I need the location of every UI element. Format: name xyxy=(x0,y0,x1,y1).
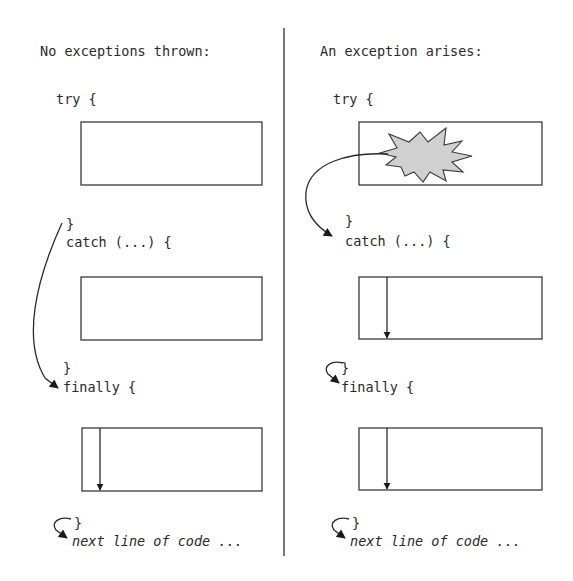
left-next-line: next line of code ... xyxy=(72,533,243,549)
left-heading: No exceptions thrown: xyxy=(40,43,211,59)
left-catch-open: catch (...) { xyxy=(66,234,172,250)
right-next-line: next line of code ... xyxy=(350,533,521,549)
continue-curl-arrow-icon-right xyxy=(332,518,349,538)
left-panel-no-exception: No exceptions thrown: try { } catch (...… xyxy=(33,43,262,549)
skip-catch-arrow-icon xyxy=(33,223,62,388)
left-finally-block xyxy=(82,428,262,491)
right-catch-open: catch (...) { xyxy=(345,233,451,249)
left-try-close: } xyxy=(66,216,74,232)
try-catch-finally-diagram: No exceptions thrown: try { } catch (...… xyxy=(0,0,573,581)
left-finally-close: } xyxy=(74,515,82,531)
right-heading: An exception arises: xyxy=(320,43,483,59)
left-catch-block xyxy=(81,277,262,340)
right-finally-open: finally { xyxy=(341,379,414,395)
right-try-close: } xyxy=(345,213,353,229)
right-try-open: try { xyxy=(333,91,374,107)
left-try-block xyxy=(81,122,262,185)
right-panel-exception: An exception arises: try { } catch (...)… xyxy=(306,43,542,549)
left-catch-close: } xyxy=(63,360,71,376)
left-try-open: try { xyxy=(56,91,97,107)
continue-curl-arrow-icon xyxy=(54,518,71,538)
right-finally-close: } xyxy=(352,515,360,531)
left-finally-open: finally { xyxy=(63,379,136,395)
